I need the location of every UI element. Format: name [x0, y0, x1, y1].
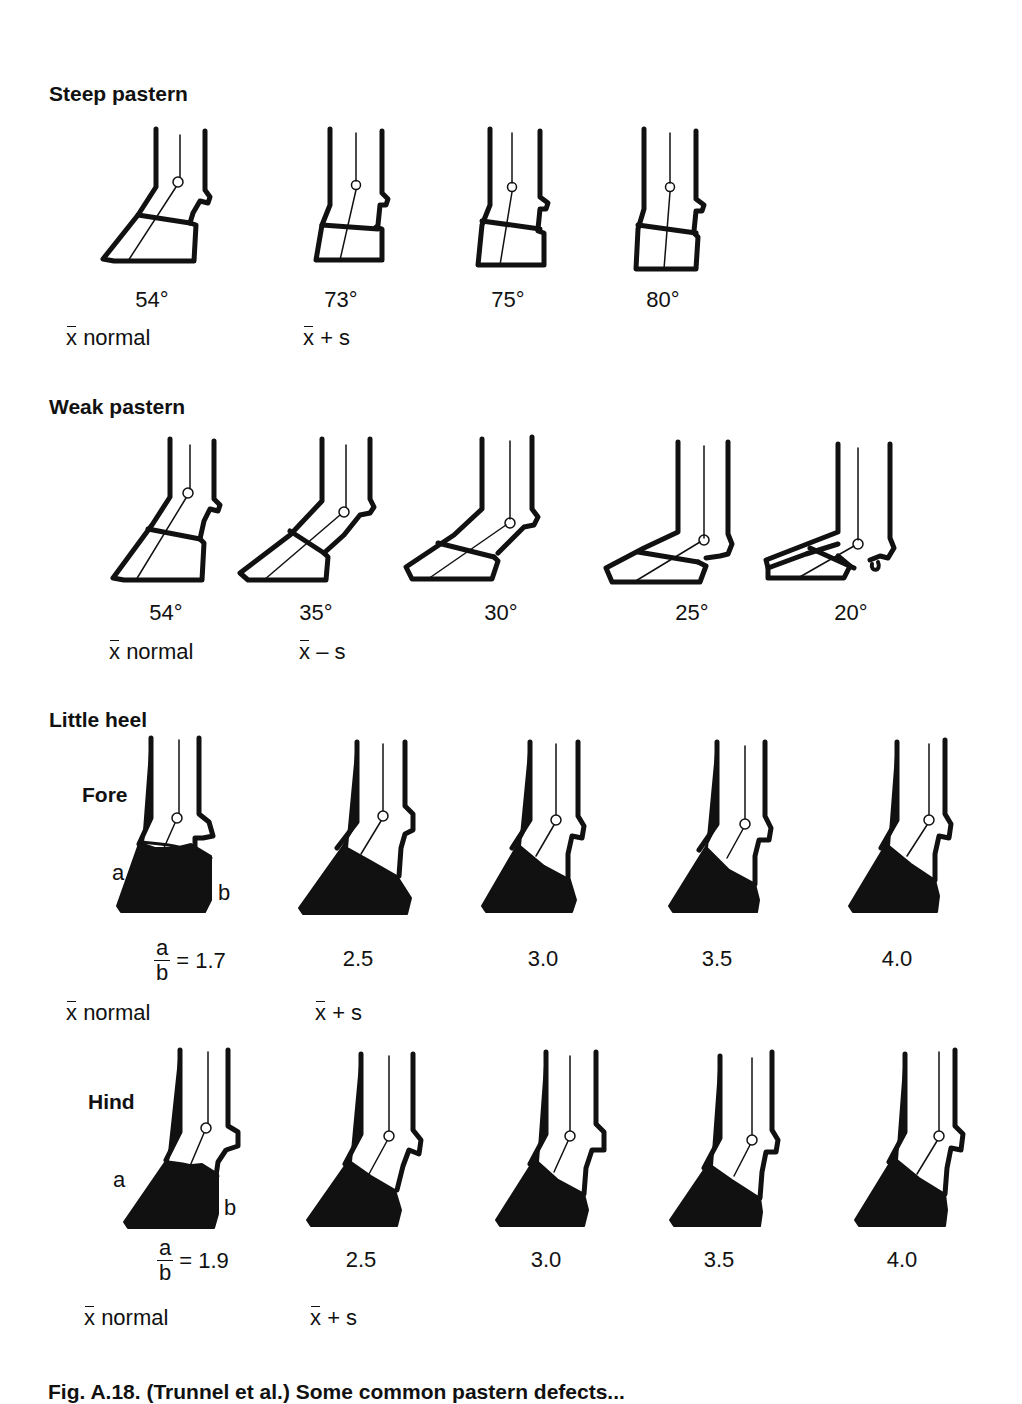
angle-label: 73°	[324, 287, 357, 313]
hoof-fore-4-0	[845, 736, 965, 921]
letter-b-label: b	[218, 880, 230, 906]
angle-label: 75°	[491, 287, 524, 313]
figure-caption: Fig. A.18. (Trunnel et al.) Some common …	[48, 1380, 625, 1404]
ratio-value: 4.0	[882, 946, 913, 972]
ratio-a-over-b-fore: ab = 1.7	[154, 936, 226, 985]
hoof-weak-30	[398, 435, 548, 585]
stat-label-mean-normal: x normal	[84, 1305, 168, 1331]
hoof-weak-25	[598, 440, 748, 590]
hoof-weak-20	[758, 440, 908, 590]
hoof-hind-3-0	[494, 1048, 614, 1233]
ratio-value: 3.0	[531, 1247, 562, 1273]
ratio-value: 3.5	[704, 1247, 735, 1273]
ratio-value: 3.5	[702, 946, 733, 972]
hoof-hind-4-0	[853, 1046, 973, 1231]
hoof-weak-35	[234, 435, 384, 585]
ratio-value: 3.0	[528, 946, 559, 972]
angle-label: 35°	[299, 600, 332, 626]
hoof-fore-3-5	[665, 736, 785, 921]
section-title-weak-pastern: Weak pastern	[49, 395, 185, 419]
hoof-steep-80	[628, 125, 728, 275]
ratio-value: 2.5	[343, 946, 374, 972]
stat-label-mean-plus-sd: x + s	[310, 1305, 357, 1331]
letter-a-label: a	[113, 1167, 125, 1193]
stat-label-mean-normal: x normal	[66, 325, 150, 351]
angle-label: 30°	[484, 600, 517, 626]
angle-label: 54°	[149, 600, 182, 626]
stat-label-mean-normal: x normal	[109, 639, 193, 665]
section-title-little-heel: Little heel	[49, 708, 147, 732]
hoof-fore-2-5	[297, 736, 417, 921]
section-title-steep-pastern: Steep pastern	[49, 82, 188, 106]
hoof-steep-54	[90, 125, 220, 275]
hoof-steep-73	[300, 125, 400, 275]
ratio-value: 4.0	[887, 1247, 918, 1273]
stat-label-mean-normal: x normal	[66, 1000, 150, 1026]
stat-label-mean-plus-sd: x + s	[303, 325, 350, 351]
hoof-hind-3-5	[668, 1048, 788, 1233]
letter-a-label: a	[112, 860, 124, 886]
letter-b-label: b	[224, 1195, 236, 1221]
hoof-steep-75	[468, 125, 568, 275]
ratio-value: 2.5	[346, 1247, 377, 1273]
hoof-fore-3-0	[480, 736, 600, 921]
ratio-a-over-b-hind: ab = 1.9	[157, 1236, 229, 1285]
angle-label: 80°	[646, 287, 679, 313]
angle-label: 20°	[834, 600, 867, 626]
stat-label-mean-minus-sd: x – s	[299, 639, 345, 665]
stat-label-mean-plus-sd: x + s	[315, 1000, 362, 1026]
hoof-fore-1-7	[115, 732, 235, 917]
angle-label: 54°	[135, 287, 168, 313]
hoof-weak-54	[104, 435, 234, 585]
hoof-hind-2-5	[305, 1050, 425, 1235]
angle-label: 25°	[675, 600, 708, 626]
